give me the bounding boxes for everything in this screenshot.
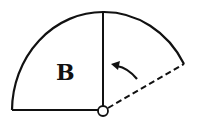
region-label: B [56,59,75,85]
rotation-arrow-icon [117,66,137,79]
rotation-diagram: B [0,0,197,128]
sector-arc [12,12,184,110]
pivot-circle [98,106,108,116]
arrow-head [111,61,120,70]
dashed-radius [108,64,184,108]
